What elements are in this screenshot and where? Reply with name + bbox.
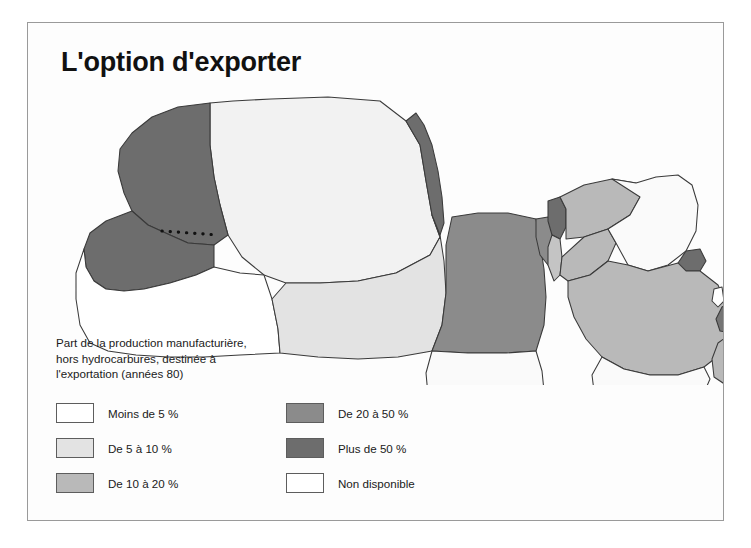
region-egypt[interactable] xyxy=(432,213,546,353)
legend-swatch xyxy=(286,473,324,493)
legend-item[interactable]: De 10 à 20 % xyxy=(56,466,286,501)
legend-item-label: Plus de 50 % xyxy=(338,442,406,455)
legend-swatch xyxy=(56,438,94,458)
legend-swatch xyxy=(56,473,94,493)
legend-item-label: Moins de 5 % xyxy=(108,407,178,420)
legend-item[interactable]: Non disponible xyxy=(286,466,415,501)
legend-swatch xyxy=(286,403,324,423)
map-legend: Part de la production manufacturière, ho… xyxy=(56,335,696,501)
legend-item-label: De 20 à 50 % xyxy=(338,407,408,420)
legend-item[interactable]: Plus de 50 % xyxy=(286,431,415,466)
legend-swatch xyxy=(286,438,324,458)
legend-item-label: De 10 à 20 % xyxy=(108,477,178,490)
legend-item-label: De 5 à 10 % xyxy=(108,442,172,455)
legend-column-right: De 20 à 50 % Plus de 50 % Non disponible xyxy=(286,396,415,501)
legend-item[interactable]: De 20 à 50 % xyxy=(286,396,415,431)
region-algeria[interactable] xyxy=(210,97,440,283)
legend-item[interactable]: De 5 à 10 % xyxy=(56,431,286,466)
legend-swatch xyxy=(56,403,94,423)
legend-caption: Part de la production manufacturière, ho… xyxy=(56,335,356,382)
map-figure-frame: L'option d'exporter xyxy=(27,22,724,521)
legend-item[interactable]: Moins de 5 % xyxy=(56,396,286,431)
legend-item-label: Non disponible xyxy=(338,477,415,490)
figure-title: L'option d'exporter xyxy=(61,47,301,78)
legend-column-left: Moins de 5 % De 5 à 10 % De 10 à 20 % xyxy=(56,396,286,501)
